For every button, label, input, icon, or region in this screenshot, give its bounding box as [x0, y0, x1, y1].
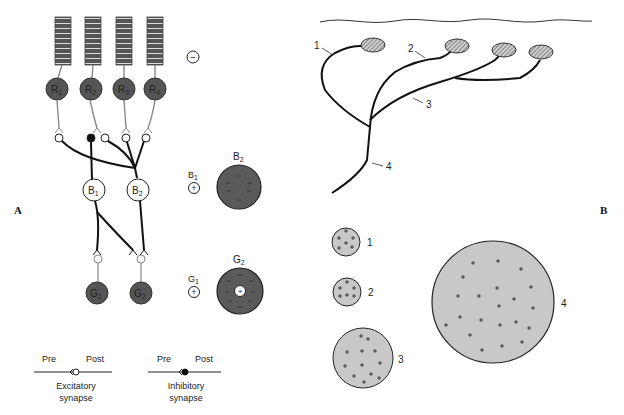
photoreceptor-outer-segments	[55, 17, 163, 65]
svg-text:2: 2	[408, 43, 414, 54]
legend-inhibitory: Pre Post Inhibitory synapse	[148, 354, 221, 403]
nerve-branches	[322, 46, 540, 193]
legend-excitatory: Pre Post Excitatory synapse	[34, 354, 112, 403]
receptor-stalks	[58, 65, 155, 78]
svg-text:Pre: Pre	[42, 354, 56, 364]
ganglion-cells: G1 G2	[86, 282, 152, 304]
bipolar-cells: B1 B2	[83, 179, 149, 201]
panel-a: A R1 R2 R3 R4	[14, 17, 263, 403]
inhibitory-synapse	[87, 134, 95, 142]
photoreceptors: R1 R2 R3 R4	[46, 78, 166, 100]
svg-text:+: +	[191, 287, 196, 297]
receptive-field-2: 2	[333, 278, 374, 306]
presynaptic-forks	[55, 128, 152, 133]
svg-text:Post: Post	[86, 354, 105, 364]
inhibitory-synapse-icon	[182, 369, 188, 375]
panel-a-label: A	[14, 204, 22, 216]
svg-text:G1: G1	[188, 274, 199, 285]
outer-segment-r2	[85, 17, 101, 65]
excitatory-synapse	[122, 134, 130, 142]
excitatory-synapse-icon	[73, 369, 79, 375]
receptor-ending-3	[492, 43, 516, 57]
svg-text:Inhibitory: Inhibitory	[168, 381, 205, 391]
receptive-field-3: 3	[333, 328, 404, 388]
ganglion-receptive-fields: G1 + G2 +	[188, 254, 263, 314]
panel-b: B 1 2 3 4	[314, 19, 608, 388]
excitatory-synapse	[55, 134, 63, 142]
svg-text:synapse: synapse	[59, 393, 93, 403]
svg-text:4: 4	[561, 298, 567, 309]
receptor-ending-2	[445, 39, 469, 53]
outer-segment-r4	[147, 17, 163, 65]
ganglion-dendrites	[98, 263, 141, 283]
svg-text:−: −	[190, 52, 196, 63]
svg-text:3: 3	[398, 354, 404, 365]
bipolar-dendrites	[62, 141, 144, 180]
bipolar-axons	[95, 201, 144, 250]
svg-text:2: 2	[368, 287, 374, 298]
outer-segment-r1	[55, 17, 71, 65]
receptor-sign: −	[187, 51, 199, 63]
excitatory-synapse	[101, 134, 109, 142]
b2-receptive-field	[217, 165, 261, 209]
svg-text:B1: B1	[188, 170, 198, 181]
outer-segment-r3	[116, 17, 132, 65]
bipolar-forks	[93, 250, 148, 255]
svg-text:1: 1	[367, 237, 373, 248]
svg-text:4: 4	[386, 161, 392, 172]
synapses-receptor-bipolar	[55, 134, 150, 142]
receptor-ending-4	[529, 45, 553, 59]
excitatory-synapse	[94, 255, 102, 263]
svg-text:Pre: Pre	[157, 354, 171, 364]
svg-text:Post: Post	[195, 354, 214, 364]
receptor-endings	[361, 38, 553, 59]
svg-text:synapse: synapse	[169, 393, 203, 403]
svg-text:G2: G2	[233, 254, 245, 266]
bipolar-receptive-fields: B1 + B2	[188, 151, 261, 209]
skin-surface	[320, 19, 592, 23]
receptive-field-4: 4	[432, 241, 567, 363]
synapses-bipolar-ganglion	[94, 255, 145, 263]
svg-text:+: +	[191, 183, 196, 193]
figure-canvas: A R1 R2 R3 R4	[0, 0, 624, 415]
receptor-axons	[57, 100, 155, 128]
receptive-field-1: 1	[332, 228, 373, 256]
svg-text:3: 3	[426, 99, 432, 110]
svg-text:Excitatory: Excitatory	[56, 381, 96, 391]
panel-b-label: B	[600, 204, 608, 216]
excitatory-synapse	[137, 255, 145, 263]
svg-text:1: 1	[314, 40, 320, 51]
receptor-ending-1	[361, 38, 385, 52]
svg-text:+: +	[238, 287, 243, 296]
svg-text:B2: B2	[233, 151, 244, 163]
